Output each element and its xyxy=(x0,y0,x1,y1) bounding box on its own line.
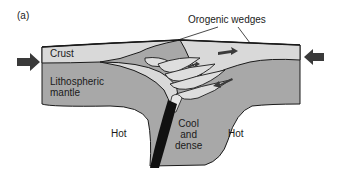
cool-dense-label-line2: and xyxy=(175,129,202,140)
cool-dense-label-line3: dense xyxy=(175,140,202,151)
hot-right-label: Hot xyxy=(228,128,244,139)
convergence-arrow-left-icon xyxy=(304,49,324,65)
orogenic-wedges-label: Orogenic wedges xyxy=(188,14,266,25)
orogen-diagram: (a) Orogenic wedges Crust Lithospheric m… xyxy=(0,0,340,178)
cool-dense-label-line1: Cool xyxy=(175,118,202,129)
convergence-arrow-right-icon xyxy=(17,53,40,71)
lithospheric-mantle-label: Lithospheric mantle xyxy=(50,76,104,98)
lithospheric-mantle-label-line1: Lithospheric xyxy=(50,76,104,87)
leader-line-right xyxy=(238,27,250,43)
lithospheric-mantle-label-line2: mantle xyxy=(50,87,104,98)
hot-left-label: Hot xyxy=(111,128,127,139)
leader-line-left xyxy=(178,27,218,40)
panel-label: (a) xyxy=(17,10,29,21)
cool-dense-label: Cool and dense xyxy=(175,118,202,151)
crust-label: Crust xyxy=(50,48,74,59)
